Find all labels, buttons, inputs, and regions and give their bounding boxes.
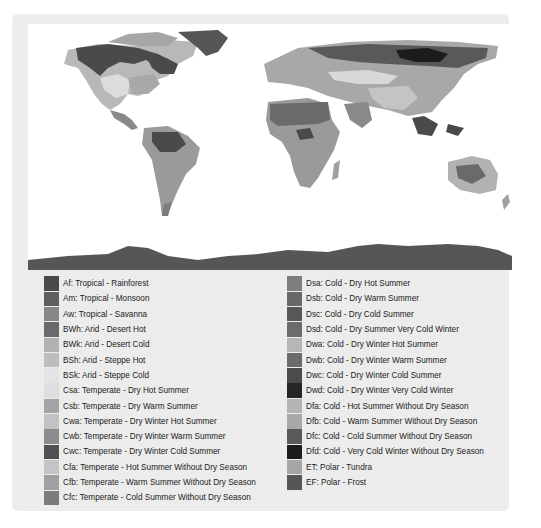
legend-item: ET: Polar - Tundra xyxy=(287,460,484,475)
legend-label: Aw: Tropical - Savanna xyxy=(63,310,147,319)
legend-item: Dwa: Cold - Dry Winter Hot Summer xyxy=(287,337,484,352)
legend-swatch xyxy=(287,475,302,490)
legend-label: Dfa: Cold - Hot Summer Without Dry Seaso… xyxy=(306,402,468,411)
legend-item: BWh: Arid - Desert Hot xyxy=(44,322,256,337)
legend-item: Dwb: Cold - Dry Winter Warm Summer xyxy=(287,352,484,367)
legend-label: Dwb: Cold - Dry Winter Warm Summer xyxy=(306,356,447,365)
legend-label: Cfc: Temperate - Cold Summer Without Dry… xyxy=(63,493,251,502)
south-america xyxy=(142,126,200,216)
legend-item: Dwd: Cold - Dry Winter Very Cold Winter xyxy=(287,383,484,398)
legend-swatch xyxy=(44,475,59,490)
world-climate-map xyxy=(28,24,512,270)
legend-swatch xyxy=(44,292,59,307)
legend-item: Dsc: Cold - Dry Cold Summer xyxy=(287,307,484,322)
legend-swatch xyxy=(44,276,59,291)
legend-swatch xyxy=(287,460,302,475)
legend-item: EF: Polar - Frost xyxy=(287,475,484,490)
legend-label: Dsc: Cold - Dry Cold Summer xyxy=(306,310,414,319)
legend-swatch xyxy=(44,368,59,383)
legend-item: Dfa: Cold - Hot Summer Without Dry Seaso… xyxy=(287,398,484,413)
legend-item: Dfc: Cold - Cold Summer Without Dry Seas… xyxy=(287,429,484,444)
legend-label: Dwa: Cold - Dry Winter Hot Summer xyxy=(306,340,438,349)
north-america xyxy=(64,30,228,130)
legend-item: Dsd: Cold - Dry Summer Very Cold Winter xyxy=(287,322,484,337)
legend-item: Cwb: Temperate - Dry Winter Warm Summer xyxy=(44,429,256,444)
legend-swatch xyxy=(287,414,302,429)
legend-item: Csa: Temperate - Dry Hot Summer xyxy=(44,383,256,398)
legend-label: Cwc: Temperate - Dry Winter Cold Summer xyxy=(63,447,220,456)
legend-label: BSh: Arid - Steppe Hot xyxy=(63,356,145,365)
legend-swatch xyxy=(287,338,302,353)
legend-item: Af: Tropical - Rainforest xyxy=(44,276,256,291)
legend-swatch xyxy=(44,491,59,506)
legend-label: BWk: Arid - Desert Cold xyxy=(63,340,149,349)
legend-swatch xyxy=(44,322,59,337)
legend-label: Am: Tropical - Monsoon xyxy=(63,294,149,303)
legend-label: Cfb: Temperate - Warm Summer Without Dry… xyxy=(63,478,256,487)
legend-label: Dfd: Cold - Very Cold Winter Without Dry… xyxy=(306,447,484,456)
legend-item: Cfb: Temperate - Warm Summer Without Dry… xyxy=(44,475,256,490)
legend-label: Csa: Temperate - Dry Hot Summer xyxy=(63,386,189,395)
legend-swatch xyxy=(287,429,302,444)
legend-label: ET: Polar - Tundra xyxy=(306,463,372,472)
legend-item: Dfb: Cold - Warm Summer Without Dry Seas… xyxy=(287,414,484,429)
legend-label: Dsd: Cold - Dry Summer Very Cold Winter xyxy=(306,325,459,334)
legend-item: Dsa: Cold - Dry Hot Summer xyxy=(287,276,484,291)
legend-item: Cwa: Temperate - Dry Winter Hot Summer xyxy=(44,414,256,429)
legend-swatch xyxy=(287,368,302,383)
legend-swatch xyxy=(44,399,59,414)
legend-swatch xyxy=(287,307,302,322)
legend-swatch xyxy=(287,292,302,307)
legend-swatch xyxy=(44,307,59,322)
legend-swatch xyxy=(287,399,302,414)
legend-item: Am: Tropical - Monsoon xyxy=(44,291,256,306)
legend-swatch xyxy=(44,460,59,475)
legend-label: Dsa: Cold - Dry Hot Summer xyxy=(306,279,410,288)
legend-label: EF: Polar - Frost xyxy=(306,478,366,487)
africa xyxy=(266,98,340,188)
legend-swatch xyxy=(44,414,59,429)
legend-label: Dfc: Cold - Cold Summer Without Dry Seas… xyxy=(306,432,472,441)
legend-item: Cfa: Temperate - Hot Summer Without Dry … xyxy=(44,460,256,475)
legend-swatch xyxy=(287,276,302,291)
legend-item: Csb: Temperate - Dry Warm Summer xyxy=(44,398,256,413)
legend-left-column: Af: Tropical - RainforestAm: Tropical - … xyxy=(44,276,256,505)
legend-swatch xyxy=(44,353,59,368)
legend-label: Af: Tropical - Rainforest xyxy=(63,279,149,288)
legend-item: Cwc: Temperate - Dry Winter Cold Summer xyxy=(44,444,256,459)
legend-label: Csb: Temperate - Dry Warm Summer xyxy=(63,402,198,411)
legend-swatch xyxy=(287,445,302,460)
antarctica xyxy=(28,244,512,270)
legend-item: Dwc: Cold - Dry Winter Cold Summer xyxy=(287,368,484,383)
legend-item: Dsb: Cold - Dry Warm Summer xyxy=(287,291,484,306)
legend-label: BWh: Arid - Desert Hot xyxy=(63,325,146,334)
legend-right-column: Dsa: Cold - Dry Hot SummerDsb: Cold - Dr… xyxy=(287,276,484,490)
world-map-graphic xyxy=(28,24,512,270)
australia xyxy=(448,156,510,210)
legend-label: Cwb: Temperate - Dry Winter Warm Summer xyxy=(63,432,225,441)
legend-label: Dsb: Cold - Dry Warm Summer xyxy=(306,294,419,303)
legend-item: BWk: Arid - Desert Cold xyxy=(44,337,256,352)
legend-label: Dwd: Cold - Dry Winter Very Cold Winter xyxy=(306,386,453,395)
legend-item: Cfc: Temperate - Cold Summer Without Dry… xyxy=(44,490,256,505)
legend-swatch xyxy=(44,445,59,460)
legend-swatch xyxy=(287,353,302,368)
legend-item: Dfd: Cold - Very Cold Winter Without Dry… xyxy=(287,444,484,459)
legend-label: Cwa: Temperate - Dry Winter Hot Summer xyxy=(63,417,217,426)
legend-swatch xyxy=(44,383,59,398)
legend-swatch xyxy=(44,429,59,444)
legend-swatch xyxy=(287,322,302,337)
legend-item: BSk: Arid - Steppe Cold xyxy=(44,368,256,383)
legend-item: Aw: Tropical - Savanna xyxy=(44,307,256,322)
legend-swatch xyxy=(287,383,302,398)
legend-item: BSh: Arid - Steppe Hot xyxy=(44,352,256,367)
legend-label: Cfa: Temperate - Hot Summer Without Dry … xyxy=(63,463,247,472)
legend-label: BSk: Arid - Steppe Cold xyxy=(63,371,149,380)
legend-swatch xyxy=(44,338,59,353)
legend-label: Dfb: Cold - Warm Summer Without Dry Seas… xyxy=(306,417,477,426)
legend-label: Dwc: Cold - Dry Winter Cold Summer xyxy=(306,371,442,380)
